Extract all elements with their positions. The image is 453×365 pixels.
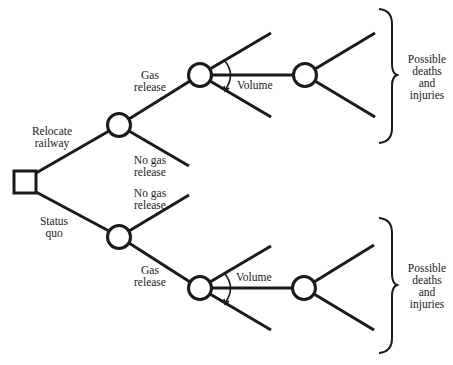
decision-node-square (14, 171, 36, 193)
label-upper-outcome-line3: and (419, 77, 436, 89)
label-lower-outcome-line1: Possible (408, 262, 446, 274)
label-status-line1: Status (40, 215, 69, 227)
label-lower-gas-line2: release (134, 276, 166, 288)
chance-node-upper-volume (189, 64, 212, 87)
label-lower-nogas-line2: release (134, 199, 166, 211)
label-upper-outcome-line4: injuries (410, 89, 445, 102)
edge-lower-outcome-high (314, 245, 374, 282)
decision-tree-diagram: Relocate railway Gas release No gas rele… (0, 0, 453, 365)
label-upper-outcome-line2: deaths (412, 65, 442, 77)
label-upper-gas-line2: release (134, 81, 166, 93)
chance-node-status-quo (108, 226, 131, 249)
label-upper-volume: Volume (237, 79, 273, 91)
brace-upper (379, 9, 397, 143)
edge-lower-outcome-low (314, 294, 374, 330)
label-lower-volume: Volume (236, 271, 272, 283)
edge-lower-volume-low (210, 294, 271, 330)
label-upper-outcome-line1: Possible (408, 53, 446, 65)
label-lower-outcome-line3: and (419, 286, 436, 298)
edge-upper-outcome-low (315, 81, 375, 117)
label-lower-outcome-line2: deaths (412, 274, 442, 286)
label-upper-nogas-line2: release (134, 166, 166, 178)
edge-upper-volume-high (210, 33, 271, 69)
label-lower-outcome-line4: injuries (410, 298, 445, 311)
chance-node-upper-outcome (294, 64, 317, 87)
chance-node-relocate (108, 114, 131, 137)
label-status-line2: quo (45, 227, 63, 240)
edge-upper-outcome-high (315, 33, 375, 69)
label-upper-gas-line1: Gas (141, 69, 159, 81)
chance-node-lower-outcome (293, 277, 316, 300)
label-lower-gas-line1: Gas (141, 264, 159, 276)
label-relocate-line2: railway (35, 137, 70, 150)
brace-lower (379, 218, 397, 353)
label-relocate-line1: Relocate (32, 125, 72, 137)
chance-node-lower-volume (189, 277, 212, 300)
